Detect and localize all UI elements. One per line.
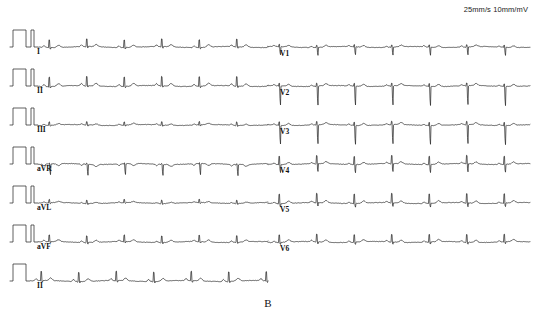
- lead-label-ii: II: [37, 87, 43, 95]
- lead-label-avf: aVF: [37, 243, 51, 251]
- ecg-trace-v6: [268, 234, 530, 244]
- ecg-trace-v3: [268, 121, 530, 144]
- ecg-trace-i: [10, 30, 268, 49]
- lead-label-i: I: [37, 48, 40, 56]
- ecg-trace-ii: [10, 69, 268, 88]
- ecg-trace-v4: [268, 155, 530, 172]
- lead-label-v1: V1: [280, 50, 289, 58]
- lead-label-v2: V2: [280, 89, 289, 97]
- lead-label-v6: V6: [280, 245, 289, 253]
- ecg-trace-v2: [268, 83, 530, 106]
- lead-label-avr: aVR: [37, 165, 52, 173]
- lead-label-ii-rhythm: II: [37, 282, 43, 290]
- lead-label-v4: V4: [280, 167, 289, 175]
- lead-label-avl: aVL: [37, 204, 51, 212]
- ecg-trace-iii: [10, 108, 268, 126]
- ecg-trace-ii-rhythm: [10, 264, 268, 283]
- panel-label: B: [0, 297, 536, 309]
- lead-label-iii: III: [37, 126, 46, 134]
- ecg-figure: 25mm/s 10mm/mV IIIIIIaVRaVLaVFIIV1V2V3V4…: [0, 0, 536, 313]
- ecg-trace-v5: [268, 193, 530, 207]
- ecg-trace-avl: [10, 186, 268, 205]
- lead-label-v3: V3: [280, 128, 289, 136]
- calibration-info: 25mm/s 10mm/mV: [464, 5, 528, 14]
- ecg-traces: [0, 0, 536, 313]
- lead-label-v5: V5: [280, 206, 289, 214]
- ecg-trace-v1: [268, 44, 530, 55]
